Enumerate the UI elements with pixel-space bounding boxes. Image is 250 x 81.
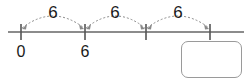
jump-arrow-tail-3 bbox=[147, 24, 152, 30]
answer-input-box[interactable] bbox=[181, 41, 242, 78]
jump-label-3: 6 bbox=[173, 3, 182, 22]
jump-label-2: 6 bbox=[110, 3, 119, 22]
tick-label-0: 0 bbox=[17, 43, 26, 60]
jump-arrow-head-3 bbox=[204, 24, 209, 30]
jump-arrow-head-1 bbox=[79, 24, 84, 30]
jump-arrow-tail-2 bbox=[86, 24, 91, 30]
jump-arrow-tail-1 bbox=[22, 24, 27, 30]
jump-arrow-head-2 bbox=[140, 24, 145, 30]
number-line-worksheet: 6 6 6 0 6 bbox=[0, 0, 250, 81]
jump-label-1: 6 bbox=[48, 3, 57, 22]
tick-label-1: 6 bbox=[81, 43, 90, 60]
